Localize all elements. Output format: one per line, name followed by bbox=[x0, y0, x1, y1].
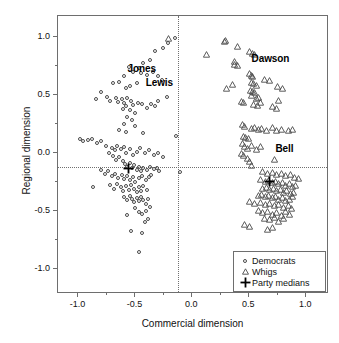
data-point-whig bbox=[287, 190, 294, 197]
annotation-jones: Jones bbox=[127, 63, 155, 74]
data-point-democrat bbox=[120, 173, 124, 177]
data-point-whig bbox=[269, 194, 276, 201]
data-point-whig bbox=[295, 175, 302, 182]
data-point-whig bbox=[255, 207, 262, 214]
data-point-whig bbox=[265, 192, 272, 199]
data-point-democrat bbox=[128, 194, 132, 198]
data-point-whig bbox=[242, 134, 249, 141]
data-point-democrat bbox=[122, 177, 126, 181]
data-point-whig bbox=[286, 180, 293, 187]
data-point-democrat bbox=[131, 153, 135, 157]
data-point-whig bbox=[273, 209, 280, 216]
data-point-whig bbox=[280, 215, 287, 222]
data-point-democrat bbox=[104, 144, 108, 148]
annotation-dawson: Dawson bbox=[252, 53, 290, 64]
data-point-whig bbox=[257, 143, 264, 150]
data-point-whig bbox=[231, 58, 238, 65]
data-point-democrat bbox=[111, 154, 115, 158]
y-tick-minor bbox=[55, 123, 57, 124]
data-point-democrat bbox=[113, 172, 117, 176]
data-point-whig bbox=[292, 182, 299, 189]
data-point-whig bbox=[241, 143, 248, 150]
vertical-reference-line bbox=[178, 16, 179, 292]
legend-label: Whigs bbox=[252, 267, 277, 277]
legend-item-party-medians: Party medians bbox=[238, 277, 321, 288]
data-point-democrat bbox=[153, 49, 157, 53]
data-point-whig bbox=[238, 150, 245, 157]
data-point-whig bbox=[290, 189, 297, 196]
data-point-whig bbox=[257, 99, 264, 106]
data-point-whig bbox=[287, 171, 294, 178]
data-point-whig bbox=[231, 61, 238, 68]
data-point-democrat bbox=[140, 231, 144, 235]
data-point-whig bbox=[234, 62, 241, 69]
annotation-lewis: Lewis bbox=[146, 77, 173, 88]
data-point-democrat bbox=[128, 147, 132, 151]
data-point-whig bbox=[270, 185, 277, 192]
data-point-democrat bbox=[129, 229, 133, 233]
y-tick-label: -0.5 bbox=[34, 205, 50, 215]
x-tick bbox=[191, 293, 192, 297]
data-point-democrat bbox=[133, 206, 137, 210]
data-point-whig bbox=[253, 82, 260, 89]
data-point-democrat bbox=[130, 118, 134, 122]
data-point-whig bbox=[275, 201, 282, 208]
data-point-whig bbox=[259, 168, 266, 175]
data-point-whig bbox=[257, 199, 264, 206]
data-point-democrat bbox=[125, 198, 129, 202]
data-point-democrat bbox=[143, 151, 147, 155]
x-tick-label: 0.0 bbox=[185, 299, 198, 309]
data-point-whig bbox=[273, 105, 280, 112]
y-tick bbox=[53, 36, 57, 37]
data-point-whig bbox=[244, 155, 251, 162]
data-point-democrat bbox=[138, 146, 142, 150]
x-tick bbox=[134, 293, 135, 297]
data-point-democrat bbox=[144, 202, 148, 206]
y-tick-minor bbox=[55, 181, 57, 182]
data-point-democrat bbox=[116, 176, 120, 180]
data-point-whig bbox=[246, 223, 253, 230]
data-point-democrat bbox=[124, 184, 128, 188]
data-point-democrat bbox=[165, 95, 169, 99]
data-point-democrat bbox=[144, 178, 148, 182]
data-point-whig bbox=[275, 196, 282, 203]
data-point-democrat bbox=[125, 115, 129, 119]
data-point-democrat bbox=[117, 155, 121, 159]
data-point-democrat bbox=[133, 180, 137, 184]
data-point-democrat bbox=[125, 96, 129, 100]
data-point-whig bbox=[280, 189, 287, 196]
data-point-whig bbox=[265, 177, 272, 184]
data-point-democrat bbox=[115, 144, 119, 148]
y-tick-minor bbox=[55, 239, 57, 240]
data-point-whig bbox=[241, 221, 248, 228]
data-point-whig bbox=[263, 127, 270, 134]
data-point-whig bbox=[272, 178, 279, 185]
legend-label: Democrats bbox=[252, 256, 296, 266]
data-point-democrat bbox=[105, 95, 109, 99]
data-point-democrat bbox=[129, 183, 133, 187]
y-tick bbox=[53, 268, 57, 269]
data-point-democrat bbox=[114, 158, 118, 162]
data-point-whig bbox=[250, 80, 257, 87]
data-point-democrat bbox=[140, 102, 144, 106]
data-point-whig bbox=[288, 205, 295, 212]
data-point-whig bbox=[278, 212, 285, 219]
data-point-democrat bbox=[86, 138, 90, 142]
data-point-whig bbox=[241, 123, 248, 130]
data-point-whig bbox=[271, 202, 278, 209]
y-axis-ticks: -1.0-0.50.00.51.0 bbox=[52, 15, 57, 293]
data-point-democrat bbox=[166, 41, 170, 45]
data-point-democrat bbox=[152, 153, 156, 157]
data-point-democrat bbox=[146, 197, 150, 201]
x-tick-label: -0.5 bbox=[127, 299, 143, 309]
data-point-whig bbox=[275, 97, 282, 104]
data-point-whig bbox=[251, 200, 258, 207]
data-point-democrat bbox=[106, 169, 110, 173]
data-point-democrat bbox=[110, 146, 114, 150]
data-point-democrat bbox=[135, 168, 139, 172]
data-point-whig bbox=[221, 38, 228, 45]
data-point-whig bbox=[223, 85, 230, 92]
data-point-whig bbox=[250, 101, 257, 108]
y-tick-label: 1.0 bbox=[37, 31, 50, 41]
data-point-whig bbox=[253, 146, 260, 153]
